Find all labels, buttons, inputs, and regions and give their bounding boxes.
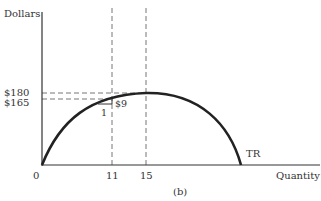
x-tick-11: 11: [106, 170, 119, 181]
annotation-run: 1: [101, 107, 107, 118]
tr-chart: Dollars $180 $165 1 $9 TR 0 11 15 Quanti…: [0, 0, 321, 201]
y-tick-165: $165: [4, 97, 29, 108]
x-axis-label: Quantity: [276, 170, 320, 181]
annotation-rise: $9: [115, 98, 127, 109]
series-label-tr: TR: [246, 148, 261, 159]
tr-curve: [42, 93, 241, 165]
x-tick-15: 15: [140, 170, 153, 181]
x-tick-0: 0: [33, 170, 39, 181]
y-axis-label: Dollars: [4, 8, 40, 19]
figure-caption: (b): [173, 186, 187, 197]
